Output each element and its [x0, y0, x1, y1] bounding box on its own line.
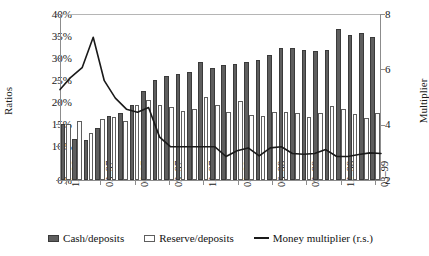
x-axis-tickmark [203, 181, 204, 185]
x-axis-tickmark [375, 181, 376, 185]
legend-item-cash-deposits: Cash/deposits [48, 232, 124, 244]
x-axis-tickmark [100, 181, 101, 185]
y-axis-right-tickmark [381, 180, 385, 181]
y-axis-right-tickmark [381, 125, 385, 126]
y-axis-right-tick-label: 6 [385, 64, 391, 75]
chart-legend: Cash/deposits Reserve/deposits Money mul… [0, 232, 421, 244]
x-axis-tickmark [169, 181, 170, 185]
legend-item-reserve-deposits: Reserve/deposits [144, 232, 234, 244]
x-axis-tickmark [135, 181, 136, 185]
y-axis-right-tickmark [381, 69, 385, 70]
legend-label-reserve-deposits: Reserve/deposits [159, 232, 234, 244]
x-axis-tickmark [66, 181, 67, 185]
y-axis-right-tick-label: 4 [385, 119, 391, 130]
y-axis-left-title: Ratios [2, 71, 14, 131]
legend-label-cash-deposits: Cash/deposits [63, 232, 124, 244]
legend-label-money-multiplier: Money multiplier (r.s.) [273, 232, 373, 244]
line-series-container [60, 14, 381, 181]
x-axis-tickmark [238, 181, 239, 185]
legend-swatch-cash-icon [48, 235, 59, 242]
x-axis-tickmark [341, 181, 342, 185]
legend-swatch-reserve-icon [144, 235, 155, 242]
legend-swatch-line-icon [254, 237, 269, 239]
x-axis-tickmark [272, 181, 273, 185]
legend-item-money-multiplier: Money multiplier (r.s.) [254, 232, 373, 244]
money-multiplier-line [60, 37, 381, 156]
x-axis-tickmark [306, 181, 307, 185]
y-axis-right-tickmark [381, 14, 385, 15]
plot-area [60, 14, 381, 180]
y-axis-right-tick-label: 8 [385, 9, 391, 20]
x-axis-tick-label: 03–99 [380, 161, 391, 187]
y-axis-right-title: Multiplier [417, 66, 429, 136]
